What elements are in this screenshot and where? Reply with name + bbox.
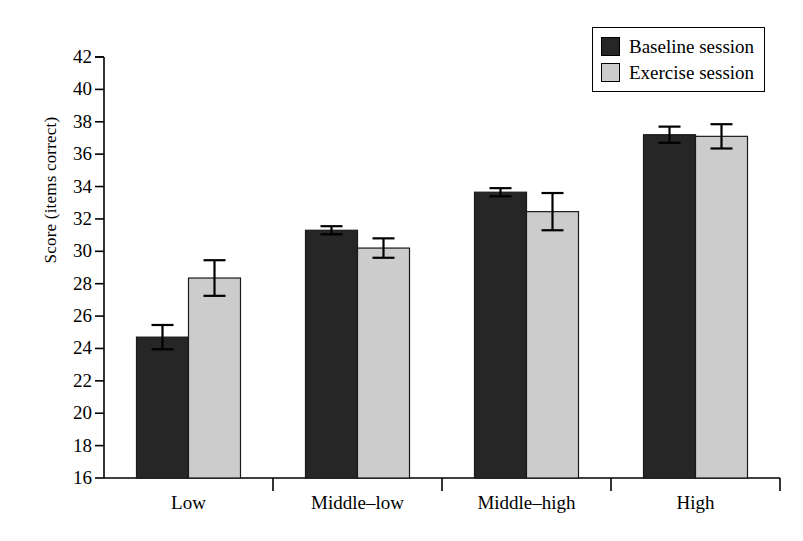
bar-middle-high-exercise <box>527 212 579 478</box>
legend-item-baseline-session[interactable]: Baseline session <box>601 33 754 59</box>
chart-legend: Baseline session Exercise session <box>592 27 765 92</box>
bar-low-baseline <box>137 337 189 478</box>
legend-swatch-baseline-session <box>601 37 620 56</box>
chart-figure: Score (items correct) 161820222426283032… <box>0 0 803 541</box>
bar-middle-low-baseline <box>306 230 358 478</box>
legend-label-exercise-session: Exercise session <box>629 63 754 82</box>
bar-middle-low-exercise <box>358 248 410 478</box>
legend-swatch-exercise-session <box>601 63 620 82</box>
bar-low-exercise <box>189 278 241 478</box>
bar-middle-high-baseline <box>475 192 527 478</box>
legend-item-exercise-session[interactable]: Exercise session <box>601 59 754 85</box>
legend-label-baseline-session: Baseline session <box>629 37 754 56</box>
bar-high-exercise <box>696 136 748 478</box>
bar-high-baseline <box>644 135 696 478</box>
